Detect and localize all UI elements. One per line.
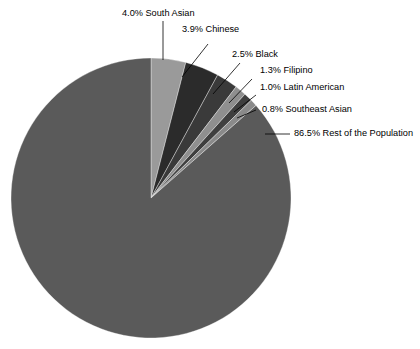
pie-chart-figure: 4.0% South Asian 3.9% Chinese 2.5% Black… xyxy=(0,0,420,349)
pie-label-rest: 86.5% Rest of the Population xyxy=(294,128,413,138)
pie-label-black: 2.5% Black xyxy=(232,49,278,59)
pie-chart-svg: 4.0% South Asian 3.9% Chinese 2.5% Black… xyxy=(0,0,420,349)
pie-label-south-asian: 4.0% South Asian xyxy=(122,8,195,18)
pie-label-southeast-asian: 0.8% Southeast Asian xyxy=(262,104,352,114)
pie-label-chinese: 3.9% Chinese xyxy=(182,24,239,34)
pie-label-filipino: 1.3% Filipino xyxy=(260,65,313,75)
pie-label-latin-american: 1.0% Latin American xyxy=(260,82,344,92)
